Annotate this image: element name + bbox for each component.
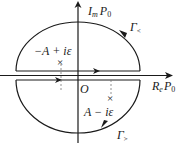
real-axis <box>0 72 173 79</box>
real-axis-label: ReP0 <box>151 79 175 94</box>
imaginary-axis-label: ImP0 <box>87 4 111 19</box>
origin-label: O <box>80 82 89 96</box>
lower-right-pole-label: A − iε <box>83 105 114 119</box>
upper-left-pole-label: −A + iε <box>34 44 72 58</box>
upper-contour-label: Γ< <box>129 20 141 35</box>
contour-diagram: × × −A + iε A − iε ImP0 ReP0 O Γ< Γ> <box>0 0 183 148</box>
lower-right-pole-marker: × <box>107 92 113 104</box>
lower-contour-label: Γ> <box>116 128 128 143</box>
